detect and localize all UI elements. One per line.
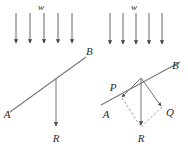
right-label-q: Q	[166, 106, 174, 118]
left-label-b: B	[86, 45, 93, 57]
canvas-background	[0, 0, 188, 148]
left-load-label: w	[38, 2, 44, 12]
right-label-a: A	[102, 108, 110, 120]
beam-load-diagram: w A B R w A B P Q R	[0, 0, 188, 148]
right-label-r: R	[137, 132, 145, 144]
right-load-label: w	[131, 2, 137, 12]
right-label-b: B	[172, 59, 179, 71]
figure-container: w A B R w A B P Q R	[0, 0, 188, 148]
left-label-a: A	[3, 108, 11, 120]
left-label-r: R	[52, 132, 60, 144]
right-label-p: P	[109, 81, 117, 93]
